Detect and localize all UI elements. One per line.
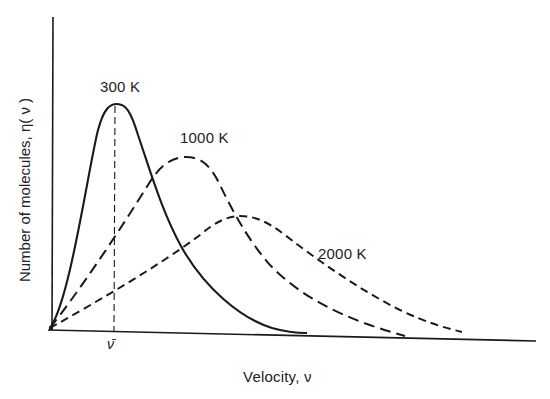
- curve-label-2000k: 2000 K: [318, 245, 367, 262]
- y-axis: [52, 17, 53, 330]
- curve-300k: [50, 104, 307, 333]
- x-axis-label: Velocity, ν: [243, 368, 312, 385]
- mean-velocity-tick-label: ν̄: [107, 336, 114, 352]
- y-axis-label: Number of molecules, η( ν ): [16, 98, 33, 282]
- chart-canvas: [0, 0, 550, 399]
- origin-point: [49, 326, 53, 330]
- curve-label-300k: 300 K: [100, 78, 140, 95]
- mean-velocity-marker: [114, 106, 115, 332]
- curve-label-1000k: 1000 K: [180, 129, 229, 146]
- curve-2000k: [50, 216, 462, 332]
- maxwell-boltzmann-chart: Number of molecules, η( ν ) Velocity, ν …: [0, 0, 550, 399]
